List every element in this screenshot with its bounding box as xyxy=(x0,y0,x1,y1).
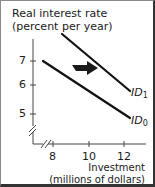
id1-label-main: ID xyxy=(131,86,143,99)
id0-label-main: ID xyxy=(131,114,143,127)
id1-label-sub: 1 xyxy=(143,91,148,100)
id0-label-sub: 0 xyxy=(143,119,148,128)
y-tick-label-7: 7 xyxy=(19,55,26,67)
shift-right-arrow-icon xyxy=(72,61,98,75)
x-axis-label-line-1: Investment xyxy=(49,162,145,174)
y-tick-label-6: 6 xyxy=(19,79,26,91)
x-axis-label-line-2: (millions of dollars) xyxy=(49,174,145,186)
id1-curve xyxy=(62,34,130,91)
id0-label: ID0 xyxy=(131,115,148,130)
chart-frame: Real interest rate (percent per year) xyxy=(0,0,155,187)
id1-label: ID1 xyxy=(131,87,148,102)
y-tick-label-5: 5 xyxy=(19,108,26,120)
x-axis-label: Investment (millions of dollars) xyxy=(49,162,145,186)
